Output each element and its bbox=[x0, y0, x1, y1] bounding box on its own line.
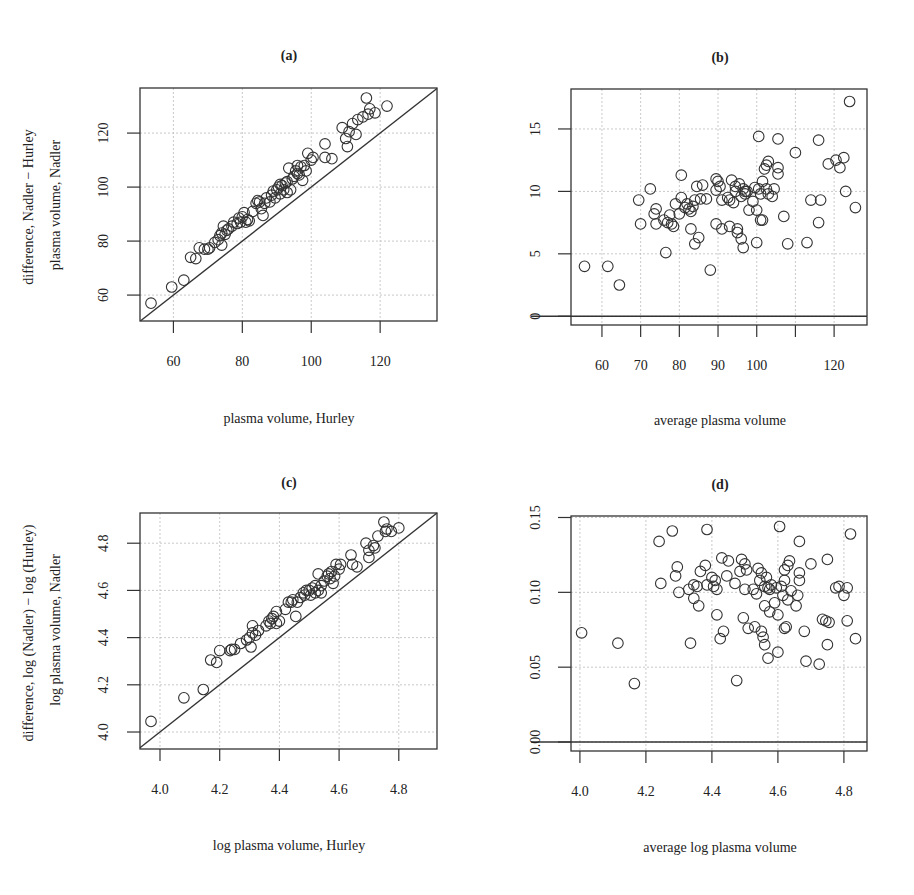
x-tick-label: 4.8 bbox=[835, 784, 853, 799]
data-point bbox=[179, 693, 190, 704]
data-point bbox=[327, 153, 338, 164]
data-point bbox=[656, 578, 667, 589]
y-axis-label: plasma volume, Nadler bbox=[48, 140, 63, 271]
data-point bbox=[146, 716, 157, 727]
plot-frame bbox=[571, 89, 867, 325]
data-point bbox=[258, 210, 269, 221]
data-point bbox=[774, 521, 785, 532]
data-point bbox=[738, 613, 749, 624]
data-point bbox=[794, 536, 805, 547]
data-point bbox=[735, 566, 746, 577]
x-tick-label: 80 bbox=[672, 358, 686, 373]
data-point bbox=[779, 211, 790, 222]
data-point bbox=[723, 556, 734, 567]
data-point bbox=[773, 134, 784, 145]
data-point bbox=[842, 616, 853, 627]
y-tick-label: 0 bbox=[528, 313, 543, 320]
x-tick-label: 80 bbox=[235, 354, 249, 369]
data-point bbox=[779, 575, 790, 586]
x-tick-label: 4.4 bbox=[703, 784, 721, 799]
data-point bbox=[320, 139, 331, 150]
y-tick-label: 4.0 bbox=[96, 723, 111, 741]
data-point bbox=[806, 195, 817, 206]
y-tick-label: 5 bbox=[528, 250, 543, 257]
data-point bbox=[667, 526, 678, 537]
y-tick-label: 0.10 bbox=[528, 580, 543, 605]
data-point bbox=[654, 536, 665, 547]
data-point bbox=[361, 93, 372, 104]
y-axis-label: difference, Nadler − Hurley bbox=[21, 129, 36, 284]
y-tick-label: 4.2 bbox=[96, 676, 111, 694]
data-point bbox=[769, 598, 780, 609]
data-point bbox=[840, 186, 851, 197]
x-axis: 60708090100120 bbox=[595, 325, 845, 373]
y-tick-label: 15 bbox=[528, 122, 543, 136]
panel-a: 60801001206080100120(a)plasma volume, Hu… bbox=[48, 48, 437, 426]
x-tick-label: 4.0 bbox=[151, 782, 169, 797]
grid-lines bbox=[571, 89, 867, 325]
x-tick-label: 60 bbox=[595, 358, 609, 373]
x-tick-label: 4.6 bbox=[769, 784, 787, 799]
y-axis-label: difference, log (Nadler) − log (Hurley) bbox=[21, 524, 37, 741]
data-point bbox=[579, 261, 590, 272]
data-point bbox=[686, 224, 697, 235]
data-point bbox=[629, 678, 640, 689]
data-point bbox=[813, 217, 824, 228]
data-point bbox=[813, 135, 824, 146]
x-axis-label: average plasma volume bbox=[654, 413, 786, 428]
data-point bbox=[661, 247, 672, 258]
panel-title: (d) bbox=[711, 477, 728, 493]
data-point bbox=[773, 162, 784, 173]
x-tick-label: 4.2 bbox=[637, 784, 655, 799]
y-axis-label: log plasma volume, Nadler bbox=[48, 554, 63, 706]
identity-line bbox=[140, 513, 437, 748]
data-point bbox=[763, 653, 774, 664]
data-point bbox=[282, 187, 293, 198]
panel-title: (b) bbox=[711, 50, 728, 66]
y-axis: 4.04.24.44.64.8 bbox=[96, 534, 140, 740]
data-point bbox=[767, 191, 778, 202]
y-tick-label: 4.4 bbox=[96, 629, 111, 647]
x-axis-label: log plasma volume, Hurley bbox=[213, 838, 365, 853]
panel-b: 60708090100120051015(b)average plasma vo… bbox=[21, 50, 867, 428]
data-point bbox=[822, 554, 833, 565]
data-point bbox=[211, 657, 222, 668]
y-axis: 6080100120 bbox=[96, 123, 140, 302]
y-tick-label: 80 bbox=[96, 234, 111, 248]
x-axis: 4.04.24.44.64.8 bbox=[571, 751, 852, 799]
data-point bbox=[689, 593, 700, 604]
data-point bbox=[685, 638, 696, 649]
data-point bbox=[782, 239, 793, 250]
data-point bbox=[364, 552, 375, 563]
data-point bbox=[697, 180, 708, 191]
data-points bbox=[579, 96, 861, 290]
x-axis-label: average log plasma volume bbox=[643, 840, 797, 855]
y-axis: 051015 bbox=[528, 122, 571, 320]
data-point bbox=[146, 298, 157, 309]
panel-title: (c) bbox=[281, 475, 297, 491]
data-point bbox=[346, 550, 357, 561]
y-tick-label: 4.6 bbox=[96, 582, 111, 600]
data-point bbox=[614, 280, 625, 291]
data-point bbox=[845, 529, 856, 540]
data-point bbox=[166, 282, 177, 293]
data-point bbox=[741, 565, 752, 576]
data-point bbox=[740, 584, 751, 595]
data-point bbox=[806, 559, 817, 570]
x-tick-label: 4.8 bbox=[390, 782, 408, 797]
data-point bbox=[758, 632, 769, 643]
panel-d: 4.04.24.44.64.80.000.050.100.15(d)averag… bbox=[21, 477, 867, 855]
data-point bbox=[850, 202, 861, 213]
data-point bbox=[722, 571, 733, 582]
data-point bbox=[379, 517, 390, 528]
x-tick-label: 4.4 bbox=[271, 782, 289, 797]
y-tick-label: 0.00 bbox=[528, 730, 543, 755]
data-point bbox=[373, 531, 384, 542]
x-tick-label: 60 bbox=[166, 354, 180, 369]
data-points bbox=[146, 517, 404, 727]
data-point bbox=[791, 601, 802, 612]
data-point bbox=[759, 639, 770, 650]
data-point bbox=[382, 101, 393, 112]
data-point bbox=[635, 219, 646, 230]
data-point bbox=[676, 192, 687, 203]
